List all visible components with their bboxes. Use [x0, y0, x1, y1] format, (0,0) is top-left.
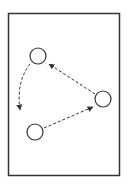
- arrow-right-to-top-left: [49, 64, 95, 94]
- arrow-top-left-to-bottom-left: [19, 64, 30, 110]
- node-bottom-left: [27, 124, 43, 140]
- arrow-bottom-left-to-right: [44, 107, 93, 128]
- cycle-diagram: [0, 0, 129, 185]
- node-right: [95, 91, 111, 107]
- node-top-left: [30, 48, 46, 64]
